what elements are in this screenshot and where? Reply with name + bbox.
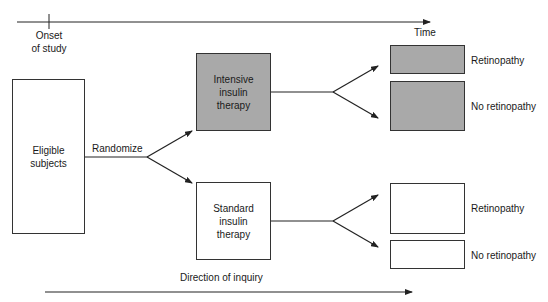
intensive-therapy-box: Intensive insulin therapy [196,53,271,131]
standard-outcome-connector [270,195,378,247]
standard-retinopathy-box [390,183,465,234]
standard-therapy-label: Standard insulin therapy [208,202,260,241]
standard-no-retinopathy-box [390,240,465,269]
intensive-outcome-connector [270,66,378,118]
onset-of-study-label: Onset of study [25,29,73,55]
standard-therapy-box: Standard insulin therapy [196,182,271,260]
eligible-subjects-label: Eligible subjects [24,144,74,170]
intensive-therapy-label: Intensive insulin therapy [208,73,260,112]
onset-label-line2: of study [25,42,73,55]
randomize-connector [84,131,192,183]
onset-label-line1: Onset [25,29,73,42]
randomize-label: Randomize [92,142,143,155]
direction-of-inquiry-label: Direction of inquiry [180,271,263,284]
eligible-subjects-box: Eligible subjects [12,79,85,234]
standard-no-retinopathy-label: No retinopathy [471,249,536,262]
intensive-retinopathy-box [390,45,465,74]
time-axis-arrow [17,14,430,29]
intensive-no-retinopathy-box [390,81,465,131]
intensive-no-retinopathy-label: No retinopathy [471,100,536,113]
intensive-retinopathy-label: Retinopathy [471,54,524,67]
time-label: Time [414,26,436,39]
standard-retinopathy-label: Retinopathy [471,202,524,215]
